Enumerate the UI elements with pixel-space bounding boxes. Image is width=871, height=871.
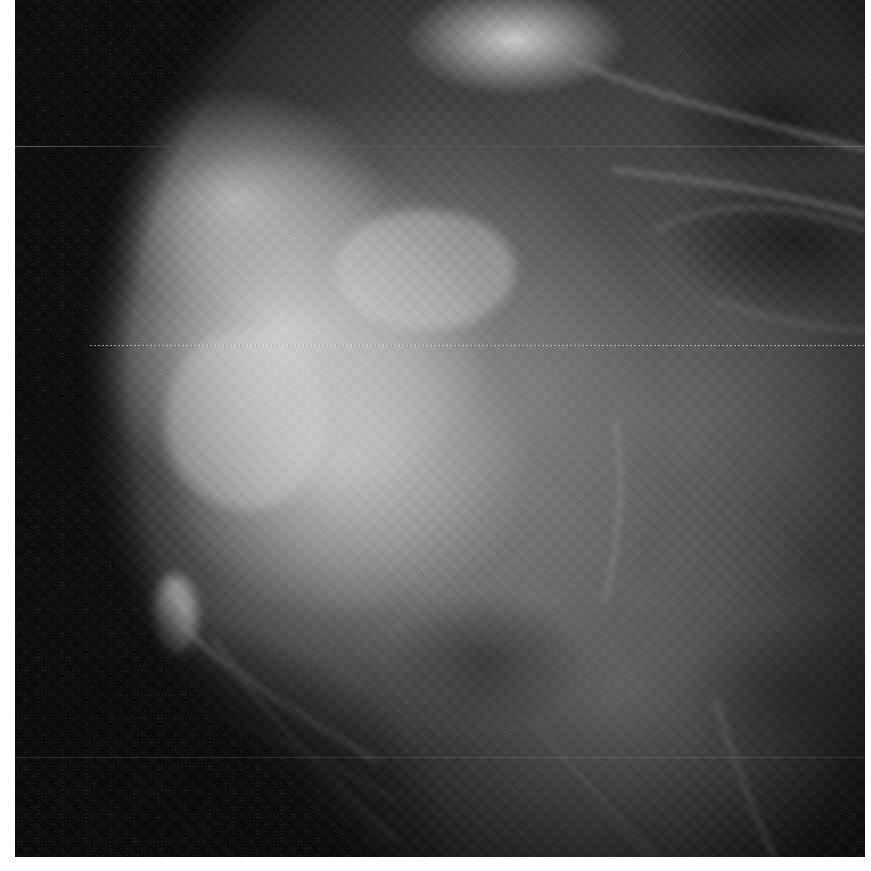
radiograph-image <box>15 0 865 857</box>
film-texture <box>15 0 865 857</box>
scan-artifact-line <box>90 345 865 346</box>
scan-artifact-line <box>15 757 865 758</box>
scan-artifact-line <box>15 146 865 147</box>
